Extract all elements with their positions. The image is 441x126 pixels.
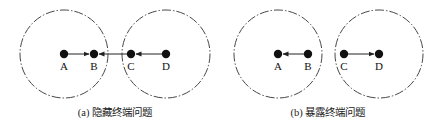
node-b [90, 50, 98, 58]
node-label-b: B [90, 60, 97, 72]
caption-b: (b) 暴露终端问题 [291, 106, 367, 119]
terminal-problem-diagram: A B C D (a) 隐藏终端问题 A B C D (b) 暴露终端问题 [0, 0, 441, 126]
node-label-a: A [274, 60, 282, 72]
node-a [60, 50, 68, 58]
caption-a: (a) 隐藏终端问题 [78, 106, 153, 119]
node-label-c: C [127, 60, 134, 72]
node-label-d: D [162, 60, 170, 72]
node-c [340, 50, 348, 58]
node-label-b: B [304, 60, 311, 72]
node-d [162, 50, 170, 58]
panel-b-exposed-terminal: A B C D (b) 暴露终端问题 [234, 10, 423, 119]
node-b [304, 50, 312, 58]
node-label-a: A [60, 60, 68, 72]
node-c [127, 50, 135, 58]
panel-a-hidden-terminal: A B C D (a) 隐藏终端问题 [20, 10, 210, 119]
node-label-c: C [340, 60, 347, 72]
node-d [375, 50, 383, 58]
node-a [274, 50, 282, 58]
node-label-d: D [375, 60, 383, 72]
